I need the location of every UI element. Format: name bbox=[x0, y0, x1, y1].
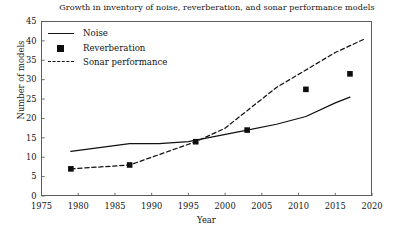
legend-item-label: Sonar performance bbox=[83, 58, 167, 67]
y-tick-label: 10 bbox=[11, 153, 37, 161]
legend-item-sonar-performance: Sonar performance bbox=[47, 55, 167, 70]
y-tick-label: 20 bbox=[11, 114, 37, 122]
legend-item-noise: Noise bbox=[47, 26, 167, 41]
x-tick-label: 2010 bbox=[279, 202, 319, 210]
y-tick-label: 15 bbox=[11, 134, 37, 142]
y-tick-label: 25 bbox=[11, 95, 37, 103]
data-point-marker bbox=[303, 87, 309, 93]
y-tick-label: 45 bbox=[11, 17, 37, 25]
x-axis-label: Year bbox=[41, 215, 372, 225]
data-point-marker bbox=[347, 71, 353, 77]
legend-item-reverberation: Reverberation bbox=[47, 41, 167, 56]
x-tick-label: 1975 bbox=[22, 202, 62, 210]
dashed-line-icon bbox=[47, 56, 77, 68]
data-point-marker bbox=[244, 127, 250, 133]
x-tick-label: 1990 bbox=[132, 202, 172, 210]
x-tick-label: 2015 bbox=[315, 202, 355, 210]
y-tick-label: 30 bbox=[11, 75, 37, 83]
solid-line-icon bbox=[47, 27, 77, 39]
series-reverberation bbox=[68, 71, 353, 172]
y-axis-label-wrapper: Number of models bbox=[0, 0, 1, 1]
x-tick-label: 2000 bbox=[205, 202, 245, 210]
legend-item-label: Noise bbox=[83, 29, 108, 38]
x-tick-label: 1980 bbox=[58, 202, 98, 210]
figure-container: Growth in inventory of noise, reverberat… bbox=[0, 0, 400, 242]
legend-item-label: Reverberation bbox=[83, 44, 145, 53]
x-tick-label: 1995 bbox=[168, 202, 208, 210]
y-tick-label: 35 bbox=[11, 56, 37, 64]
x-tick-label: 2005 bbox=[242, 202, 282, 210]
x-tick-label: 2020 bbox=[352, 202, 392, 210]
x-tick-label: 1985 bbox=[95, 202, 135, 210]
series-noise bbox=[71, 97, 350, 151]
y-tick-label: 5 bbox=[11, 172, 37, 180]
chart-legend: Noise Reverberation Sonar performance bbox=[47, 26, 167, 70]
y-tick-label: 40 bbox=[11, 37, 37, 45]
filled-square-icon bbox=[47, 42, 77, 54]
y-tick-label: 0 bbox=[11, 192, 37, 200]
